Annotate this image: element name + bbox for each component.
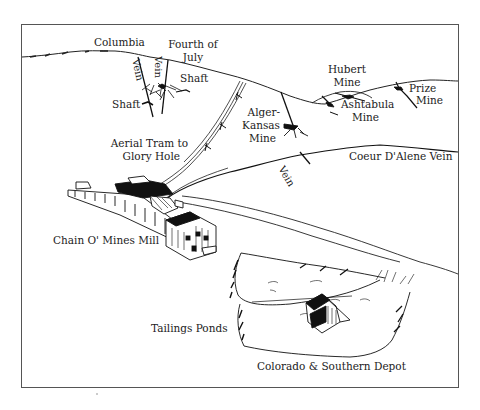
label-fourth-of-july-line2: July [162, 51, 224, 63]
label-alger-kansas-line2: Kansas [232, 119, 280, 131]
label-columbia: Columbia [94, 36, 145, 48]
chain-o-mines-mill-sketch [68, 176, 216, 260]
label-alger-kansas-line1: Alger- [232, 106, 280, 118]
depot-sketch [306, 294, 350, 333]
label-prize-line1: Prize [409, 82, 436, 94]
label-aerial-tram-line1: Aerial Tram to [102, 137, 188, 149]
map-illustration: Columbia Fourth of July Shaft Shaft Vein… [0, 0, 480, 410]
label-hubert-line1: Hubert [322, 63, 372, 75]
road [178, 196, 458, 274]
label-tailings-ponds: Tailings Ponds [151, 322, 228, 334]
map-drawing [0, 0, 480, 410]
label-vein-fourth-of-july: Vein [153, 56, 164, 78]
label-ashtabula-line1: Ashtabula [341, 98, 394, 110]
label-coeur-dalene-vein: Coeur D'Alene Vein [349, 150, 452, 162]
label-ashtabula-line2: Mine [352, 111, 379, 123]
label-hubert-line2: Mine [322, 76, 372, 88]
label-colorado-southern-depot: Colorado & Southern Depot [257, 360, 406, 372]
label-alger-kansas-line3: Mine [232, 132, 276, 144]
alger-kansas-vein [281, 92, 294, 128]
label-shaft-left: Shaft [112, 98, 140, 110]
label-fourth-of-july-line1: Fourth of [162, 38, 224, 50]
label-prize-line2: Mine [416, 94, 443, 106]
label-chain-o-mines-mill: Chain O' Mines Mill [53, 234, 159, 246]
ridge-line [22, 51, 458, 104]
label-shaft-right: Shaft [180, 72, 208, 84]
alger-kansas-mine-sketch [284, 124, 308, 138]
label-aerial-tram-line2: Glory Hole [102, 150, 180, 162]
